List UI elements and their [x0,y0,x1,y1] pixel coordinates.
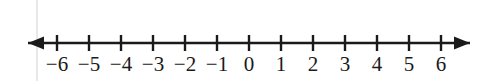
tick-label: −1 [201,54,233,75]
tick-label: 6 [425,54,457,75]
right-arrowhead-icon [454,37,470,50]
tick-label: 1 [265,54,297,75]
tick-label: 0 [233,54,265,75]
tick-label: −4 [105,54,137,75]
tick-label: −2 [169,54,201,75]
tick-label: 2 [297,54,329,75]
tick-label: 4 [361,54,393,75]
tick-label: −3 [137,54,169,75]
tick-label: −6 [41,54,73,75]
tick-label: −5 [73,54,105,75]
number-line-figure: −6−5−4−3−2−10123456 [0,0,498,81]
tick-label: 5 [393,54,425,75]
tick-label: 3 [329,54,361,75]
left-arrowhead-icon [28,37,44,50]
